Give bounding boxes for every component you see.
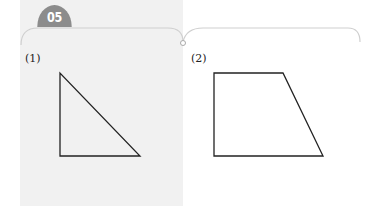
- trapezoid-figure: [214, 73, 323, 156]
- triangle-figure: [60, 73, 140, 156]
- subproblem-label-1: (1): [25, 52, 41, 65]
- frame-lines: [0, 0, 367, 212]
- subproblem-label-2: (2): [191, 52, 207, 65]
